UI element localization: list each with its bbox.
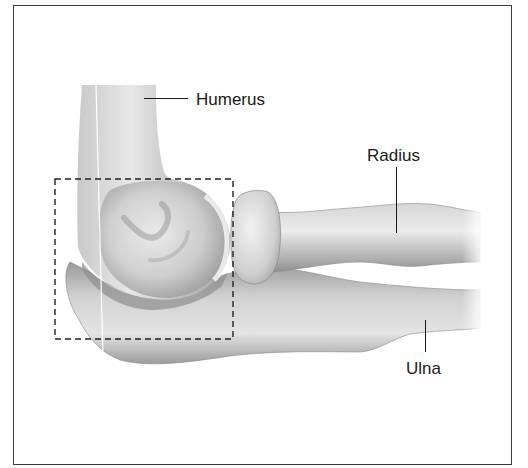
humerus-leader-line xyxy=(144,98,188,99)
radial-head xyxy=(231,190,281,284)
radius-bone xyxy=(265,203,480,272)
label-ulna: Ulna xyxy=(406,360,441,377)
radius-leader-line xyxy=(396,167,397,233)
elbow-illustration xyxy=(0,0,528,468)
ulna-leader-line xyxy=(425,320,426,352)
label-radius: Radius xyxy=(367,147,420,164)
label-humerus: Humerus xyxy=(196,91,265,108)
